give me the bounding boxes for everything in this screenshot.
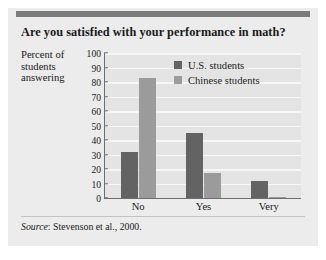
y-axis-tick-mark (104, 168, 108, 169)
y-axis-tick-mark (104, 154, 108, 155)
decorative-top-rule (16, 11, 310, 17)
y-axis-tick-label: 60 (91, 106, 101, 117)
chart-title: Are you satisfied with your performance … (21, 25, 311, 40)
y-axis-tick-mark (104, 52, 108, 53)
x-axis-tick-label-yes: Yes (196, 201, 211, 212)
legend-swatch-icon (174, 76, 182, 84)
y-axis-tick-mark (104, 125, 108, 126)
x-axis-tick-labels: NoYesVery (106, 201, 302, 217)
y-axis-tick-label: 0 (96, 193, 101, 204)
legend-item: U.S. students (174, 59, 260, 71)
y-axis-tick-label: 10 (91, 178, 101, 189)
figure-panel: Are you satisfied with your performance … (8, 8, 318, 246)
legend-swatch-icon (174, 61, 182, 69)
source-label: Source (21, 221, 48, 232)
bar-yes-u-s-students (186, 133, 203, 198)
y-axis-tick-labels: 0102030405060708090100 (70, 53, 101, 198)
y-axis-tick-mark (104, 67, 108, 68)
y-axis-tick-mark (104, 197, 108, 198)
source-note: Source: Stevenson et al., 2000. (21, 221, 142, 232)
y-axis-tick-mark (104, 96, 108, 97)
y-axis-tick-label: 30 (91, 149, 101, 160)
legend-label: U.S. students (188, 60, 244, 71)
y-axis-tick-label: 80 (91, 77, 101, 88)
y-axis-tick-mark (104, 110, 108, 111)
y-axis-tick-label: 40 (91, 135, 101, 146)
y-axis-tick-label: 70 (91, 91, 101, 102)
y-axis-tick-mark (104, 139, 108, 140)
x-axis-tick-label-very: Very (259, 201, 279, 212)
y-axis-tick-mark (104, 183, 108, 184)
bar-very-u-s-students (251, 181, 268, 198)
bar-yes-chinese-students (204, 173, 221, 198)
y-axis-tick-mark (104, 81, 108, 82)
chart-legend: U.S. studentsChinese students (174, 59, 260, 89)
source-text: : Stevenson et al., 2000. (48, 221, 142, 232)
bar-very-chinese-students (269, 197, 286, 199)
y-axis-tick-label: 20 (91, 164, 101, 175)
y-axis-tick-label: 100 (87, 48, 101, 59)
y-axis-tick-label: 90 (91, 62, 101, 73)
y-axis-tick-label: 50 (91, 120, 101, 131)
x-axis-tick-label-no: No (132, 201, 145, 212)
legend-item: Chinese students (174, 74, 260, 86)
legend-label: Chinese students (188, 75, 260, 86)
source-divider (21, 216, 305, 217)
bar-no-chinese-students (139, 78, 156, 198)
bar-no-u-s-students (121, 152, 138, 198)
